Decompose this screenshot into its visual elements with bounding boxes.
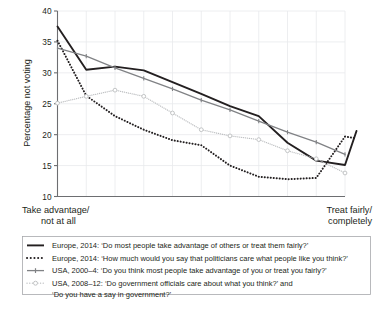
legend-label: Europe, 2014: ‘Do most people take advan… [52,241,309,250]
x-axis-left-label-line1: Take advantage/ [22,205,90,215]
data-point-marker [171,111,175,115]
data-point-marker [314,157,318,161]
legend-label: USA, 2000–4: ‘Do you think most people t… [52,266,327,275]
data-point-marker [343,171,347,175]
data-point-marker [84,94,88,98]
legend-label: Europe, 2014: ‘How much would you say th… [52,254,348,263]
x-axis-right-label-line1: Treat fairly/ [326,205,372,215]
y-tick-label: 15 [42,161,52,171]
y-axis-title: Percentage not voting [22,59,32,147]
data-point-marker [113,88,117,92]
data-point-marker [199,128,203,132]
chart-figure: 10152025303540 Percentage not voting Tak… [0,0,383,310]
data-point-marker [56,101,60,105]
data-point-marker [142,94,146,98]
y-tick-label: 35 [42,37,52,47]
y-tick-label: 25 [42,99,52,109]
y-tick-label: 20 [42,130,52,140]
y-tick-label: 30 [42,68,52,78]
data-point-marker [228,134,232,138]
data-point-marker [286,149,290,153]
legend-label: USA, 2008–12: ‘Do government officials c… [52,279,293,288]
x-axis-right-label-line2: completely [328,216,372,226]
line-chart: 10152025303540 Percentage not voting Tak… [0,0,383,310]
legend-label-line2: ‘Do you have a say in government?’ [52,290,172,299]
y-tick-label: 40 [42,6,52,16]
data-point-marker [257,138,261,142]
x-axis-left-label-line2: not at all [41,216,76,226]
y-tick-label: 10 [42,192,52,202]
